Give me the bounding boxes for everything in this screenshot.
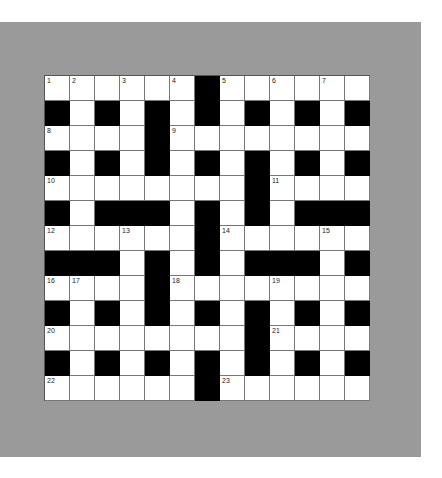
crossword-cell[interactable]: 23 — [220, 376, 245, 401]
crossword-cell[interactable]: 2 — [70, 76, 95, 101]
crossword-cell[interactable] — [195, 126, 220, 151]
crossword-cell[interactable] — [295, 376, 320, 401]
crossword-cell[interactable] — [170, 351, 195, 376]
crossword-cell[interactable]: 11 — [270, 176, 295, 201]
crossword-cell[interactable]: 6 — [270, 76, 295, 101]
crossword-cell[interactable] — [70, 301, 95, 326]
crossword-cell[interactable] — [70, 351, 95, 376]
crossword-cell[interactable] — [295, 126, 320, 151]
crossword-cell[interactable] — [295, 276, 320, 301]
crossword-cell[interactable] — [270, 376, 295, 401]
crossword-cell[interactable] — [120, 376, 145, 401]
crossword-cell[interactable] — [245, 76, 270, 101]
crossword-cell[interactable] — [345, 276, 370, 301]
crossword-cell[interactable] — [345, 326, 370, 351]
crossword-cell[interactable]: 12 — [45, 226, 70, 251]
crossword-cell[interactable]: 3 — [120, 76, 145, 101]
crossword-cell[interactable] — [70, 176, 95, 201]
crossword-cell[interactable]: 13 — [120, 226, 145, 251]
crossword-cell[interactable] — [70, 326, 95, 351]
crossword-cell[interactable] — [220, 251, 245, 276]
crossword-cell[interactable] — [245, 126, 270, 151]
crossword-cell[interactable] — [320, 151, 345, 176]
crossword-cell[interactable] — [120, 276, 145, 301]
crossword-cell[interactable]: 5 — [220, 76, 245, 101]
crossword-cell[interactable] — [120, 176, 145, 201]
crossword-cell[interactable] — [245, 276, 270, 301]
crossword-cell[interactable]: 17 — [70, 276, 95, 301]
crossword-cell[interactable] — [195, 276, 220, 301]
crossword-cell[interactable] — [95, 176, 120, 201]
crossword-cell[interactable] — [295, 226, 320, 251]
crossword-cell[interactable] — [345, 176, 370, 201]
crossword-cell[interactable] — [170, 376, 195, 401]
crossword-cell[interactable]: 1 — [45, 76, 70, 101]
crossword-cell[interactable]: 8 — [45, 126, 70, 151]
crossword-cell[interactable] — [145, 76, 170, 101]
crossword-cell[interactable] — [345, 376, 370, 401]
crossword-cell[interactable] — [95, 226, 120, 251]
crossword-cell[interactable] — [170, 326, 195, 351]
crossword-cell[interactable] — [270, 301, 295, 326]
crossword-cell[interactable] — [70, 151, 95, 176]
crossword-cell[interactable] — [120, 151, 145, 176]
crossword-cell[interactable] — [295, 176, 320, 201]
crossword-cell[interactable]: 18 — [170, 276, 195, 301]
crossword-cell[interactable] — [270, 351, 295, 376]
crossword-cell[interactable] — [120, 326, 145, 351]
crossword-cell[interactable] — [345, 126, 370, 151]
crossword-cell[interactable] — [95, 276, 120, 301]
crossword-cell[interactable] — [70, 376, 95, 401]
crossword-cell[interactable] — [220, 351, 245, 376]
crossword-cell[interactable] — [70, 101, 95, 126]
crossword-cell[interactable]: 20 — [45, 326, 70, 351]
crossword-cell[interactable] — [220, 176, 245, 201]
crossword-cell[interactable] — [120, 351, 145, 376]
crossword-cell[interactable] — [170, 301, 195, 326]
crossword-cell[interactable] — [120, 101, 145, 126]
crossword-cell[interactable] — [270, 201, 295, 226]
crossword-cell[interactable] — [295, 76, 320, 101]
crossword-cell[interactable] — [170, 201, 195, 226]
crossword-cell[interactable] — [320, 351, 345, 376]
crossword-cell[interactable] — [170, 226, 195, 251]
crossword-cell[interactable] — [320, 326, 345, 351]
crossword-cell[interactable]: 21 — [270, 326, 295, 351]
crossword-cell[interactable] — [170, 176, 195, 201]
crossword-cell[interactable] — [220, 301, 245, 326]
crossword-cell[interactable] — [120, 126, 145, 151]
crossword-cell[interactable] — [295, 326, 320, 351]
crossword-cell[interactable] — [220, 276, 245, 301]
crossword-cell[interactable] — [95, 326, 120, 351]
crossword-cell[interactable] — [170, 151, 195, 176]
crossword-cell[interactable] — [170, 251, 195, 276]
crossword-cell[interactable] — [220, 126, 245, 151]
crossword-cell[interactable]: 22 — [45, 376, 70, 401]
crossword-cell[interactable] — [70, 201, 95, 226]
crossword-cell[interactable] — [195, 326, 220, 351]
crossword-cell[interactable] — [220, 151, 245, 176]
crossword-cell[interactable] — [195, 176, 220, 201]
crossword-cell[interactable] — [95, 126, 120, 151]
crossword-cell[interactable] — [270, 126, 295, 151]
crossword-cell[interactable] — [345, 226, 370, 251]
crossword-cell[interactable] — [320, 301, 345, 326]
crossword-cell[interactable]: 19 — [270, 276, 295, 301]
crossword-cell[interactable] — [120, 251, 145, 276]
crossword-cell[interactable] — [145, 176, 170, 201]
crossword-cell[interactable] — [245, 376, 270, 401]
crossword-cell[interactable]: 9 — [170, 126, 195, 151]
crossword-cell[interactable] — [220, 201, 245, 226]
crossword-cell[interactable]: 14 — [220, 226, 245, 251]
crossword-cell[interactable] — [320, 101, 345, 126]
crossword-cell[interactable]: 15 — [320, 226, 345, 251]
crossword-cell[interactable] — [170, 101, 195, 126]
crossword-cell[interactable] — [70, 126, 95, 151]
crossword-cell[interactable]: 16 — [45, 276, 70, 301]
crossword-cell[interactable] — [320, 176, 345, 201]
crossword-cell[interactable] — [95, 376, 120, 401]
crossword-cell[interactable] — [320, 251, 345, 276]
crossword-cell[interactable] — [345, 76, 370, 101]
crossword-cell[interactable] — [320, 126, 345, 151]
crossword-cell[interactable]: 10 — [45, 176, 70, 201]
